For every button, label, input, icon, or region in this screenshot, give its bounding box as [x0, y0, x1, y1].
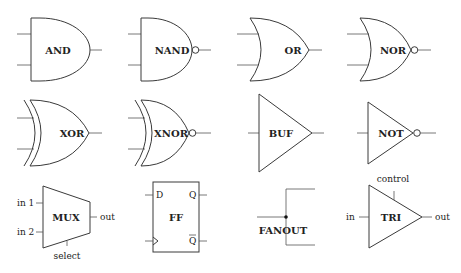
buf-label: BUF	[269, 128, 293, 139]
mux-out-label: out	[100, 212, 115, 222]
xnor-extra-arc	[135, 100, 146, 166]
inversion-bubble-icon	[189, 130, 196, 137]
xnor-label: XNOR	[154, 128, 189, 139]
logic-gates-diagram: AND NAND OR NOR XOR	[0, 0, 461, 273]
inversion-bubble-icon	[411, 47, 418, 54]
ff-label: FF	[169, 212, 183, 223]
fanout-label: FANOUT	[259, 225, 308, 236]
buf-gate: BUF	[248, 94, 324, 172]
xor-extra-arc	[24, 100, 35, 166]
tri-label: TRI	[381, 212, 402, 223]
mux-block: in 1 in 2 out select MUX	[17, 186, 115, 261]
inversion-bubble-icon	[414, 130, 421, 137]
fanout-junction: FANOUT	[257, 189, 315, 245]
not-gate: NOT	[357, 102, 436, 164]
mux-select-label: select	[54, 251, 81, 261]
clock-triangle-icon	[153, 237, 158, 245]
tri-out-label: out	[435, 212, 450, 222]
xor-gate: XOR	[17, 100, 102, 166]
flip-flop-block: D Q Q FF	[145, 182, 207, 252]
tri-control-label: control	[377, 174, 410, 184]
nor-gate: NOR	[347, 18, 431, 81]
ff-qbar-label: Q	[189, 236, 196, 246]
mux-in2-label: in 2	[17, 227, 34, 237]
fanout-junction-icon	[284, 215, 288, 219]
ff-q-label: Q	[189, 190, 196, 200]
nand-gate: NAND	[128, 18, 211, 81]
xnor-gate: XNOR	[128, 100, 211, 166]
and-gate: AND	[17, 18, 102, 81]
nand-label: NAND	[155, 45, 190, 56]
and-label: AND	[44, 45, 71, 56]
not-label: NOT	[378, 128, 404, 139]
mux-in1-label: in 1	[17, 198, 34, 208]
ff-d-label: D	[156, 190, 163, 200]
tri-in-label: in	[346, 212, 355, 222]
xor-label: XOR	[60, 128, 85, 139]
inversion-bubble-icon	[192, 47, 199, 54]
mux-label: MUX	[52, 212, 80, 223]
or-gate: OR	[237, 18, 322, 81]
or-label: OR	[284, 45, 302, 56]
tristate-buffer: in out control TRI	[346, 174, 450, 248]
nor-label: NOR	[380, 45, 407, 56]
